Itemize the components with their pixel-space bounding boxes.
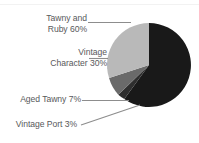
pie-label-vintage-character: Vintage Character 30% — [21, 47, 107, 69]
pie-label-aged-tawny: Aged Tawny 7% — [0, 94, 81, 105]
pie-chart-figure: Tawny and Ruby 60% Vintage Character 30%… — [0, 0, 199, 143]
leader-line-vintage-port — [81, 105, 140, 125]
pie-label-vintage-port: Vintage Port 3% — [0, 119, 77, 130]
pie-label-tawny-and-ruby: Tawny and Ruby 60% — [1, 13, 87, 35]
